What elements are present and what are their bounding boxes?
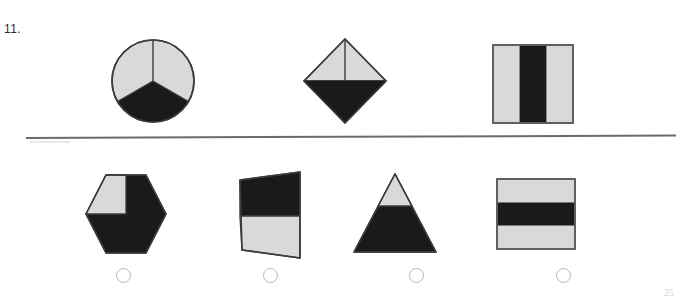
answer-option-a[interactable] bbox=[116, 268, 131, 283]
figure-diamond-thirds bbox=[300, 35, 390, 127]
figure-hexagon-sixths bbox=[84, 172, 168, 256]
worksheet-page: 11. bbox=[0, 0, 676, 296]
section-divider bbox=[26, 135, 676, 139]
figure-trapezoid-halves bbox=[236, 170, 306, 260]
scan-artifact bbox=[30, 141, 70, 143]
answer-option-d[interactable] bbox=[556, 268, 571, 283]
answer-option-c[interactable] bbox=[409, 268, 424, 283]
figure-square-vertical-thirds bbox=[492, 44, 574, 124]
answer-option-b[interactable] bbox=[263, 268, 278, 283]
figure-triangle-parts bbox=[352, 172, 438, 256]
page-number: 25 bbox=[664, 287, 674, 296]
figure-circle-thirds bbox=[110, 38, 196, 124]
answer-options-row bbox=[0, 268, 676, 292]
question-number: 11. bbox=[4, 22, 21, 36]
figure-rectangle-horizontal-thirds bbox=[496, 178, 576, 250]
